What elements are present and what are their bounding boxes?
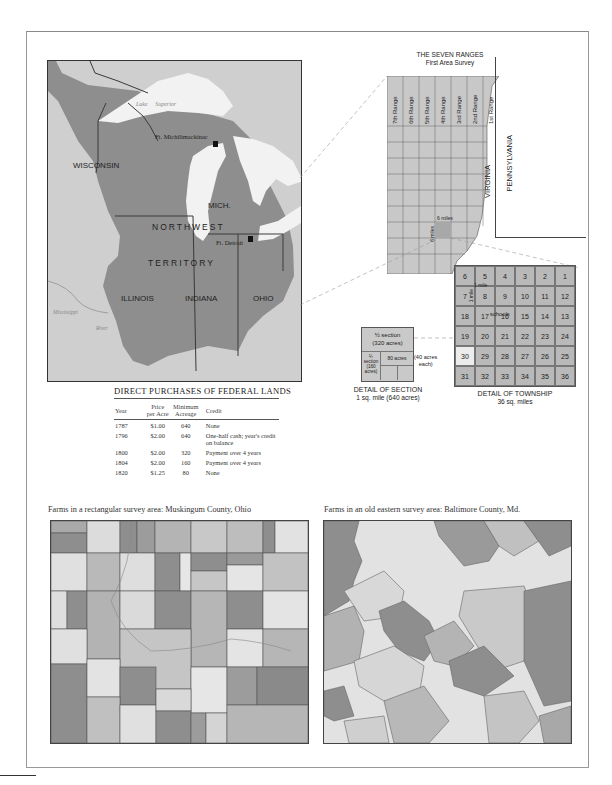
cell-credit: None	[200, 467, 279, 477]
cell-year: 1796	[114, 430, 144, 447]
township-section: 24	[555, 326, 575, 346]
section-caption-title: DETAIL OF SECTION	[338, 386, 438, 393]
table-row: 1787 $1.00 640 None	[114, 420, 279, 431]
cell-price: $2.00	[144, 447, 172, 457]
cell-acreage: 640	[172, 430, 200, 447]
township-caption-area: 36 sq. miles	[440, 398, 590, 405]
township-section: 12	[555, 286, 575, 306]
township-section: 33	[495, 366, 515, 386]
cell-price: $2.00	[144, 430, 172, 447]
township-section: 22	[515, 326, 535, 346]
one-mile-horizontal: 1 mile	[474, 282, 487, 288]
township-section: 25	[555, 346, 575, 366]
cell-acreage: 80	[172, 467, 200, 477]
table-row: 1796 $2.00 640 One-half cash; year's cre…	[114, 430, 279, 447]
township-section: 14	[535, 306, 555, 326]
section-detail: ½ section (320 acres) ¼ section (160 acr…	[361, 327, 414, 382]
township-section: 4	[495, 266, 515, 286]
header-minimum-acreage: MinimumAcreage	[172, 401, 200, 420]
federal-lands-table: DIRECT PURCHASES OF FEDERAL LANDS Year P…	[114, 386, 279, 477]
cell-year: 1820	[114, 467, 144, 477]
quarter-section: ¼ section (160 acres)	[362, 352, 381, 380]
footer-rule	[0, 775, 36, 776]
table-row: 1800 $2.00 320 Payment over 4 years	[114, 447, 279, 457]
rectangular-farms-caption: Farms in a rectangular survey area: Musk…	[48, 505, 251, 514]
township-section: 32	[475, 366, 495, 386]
cell-year: 1804	[114, 457, 144, 467]
township-section: 23	[535, 326, 555, 346]
township-section: 20	[475, 326, 495, 346]
quarter-label: acres)	[362, 369, 380, 374]
half-section-label: ½ section	[362, 331, 413, 339]
township-section: 27	[515, 346, 535, 366]
township-section: 21	[495, 326, 515, 346]
forty-acres-text: each)	[414, 361, 437, 368]
township-section: 9	[495, 286, 515, 306]
cell-credit: Payment over 4 years	[200, 447, 279, 457]
township-section: 35	[535, 366, 555, 386]
cell-credit: Payment over 4 years	[200, 457, 279, 467]
eastern-farms-caption: Farms in an old eastern survey area: Bal…	[324, 505, 520, 514]
one-mile-vertical: 1 mile	[468, 289, 474, 302]
purchases-table: Year Priceper Acre MinimumAcreage Credit…	[114, 401, 279, 477]
rectangular-survey-map	[50, 520, 309, 744]
table-header-row: Year Priceper Acre MinimumAcreage Credit	[114, 401, 279, 420]
half-section-acres: (320 acres)	[362, 339, 413, 347]
township-section-highlighted: 30	[455, 346, 475, 366]
township-section: 2	[535, 266, 555, 286]
section-caption-area: 1 sq. mile (640 acres)	[338, 394, 438, 401]
township-section: 18	[455, 306, 475, 326]
table-title: DIRECT PURCHASES OF FEDERAL LANDS	[114, 386, 279, 399]
cell-price: $1.00	[144, 420, 172, 431]
cell-year: 1787	[114, 420, 144, 431]
township-section: 6	[455, 266, 475, 286]
schools-label: schools	[490, 311, 510, 317]
forty-acres-label: (40 acres each)	[414, 354, 437, 367]
cell-acreage: 160	[172, 457, 200, 467]
eastern-survey-map	[323, 520, 572, 744]
township-grid: 6 5 4 3 2 1 7 8 9 10 11 12 18 17 16 15 1…	[454, 265, 576, 387]
township-section: 1	[555, 266, 575, 286]
township-caption-title: DETAIL OF TOWNSHIP	[440, 390, 590, 397]
cell-price: $2.00	[144, 457, 172, 467]
table-row: 1804 $2.00 160 Payment over 4 years	[114, 457, 279, 467]
township-caption: DETAIL OF TOWNSHIP 36 sq. miles	[440, 390, 590, 405]
township-section: 26	[535, 346, 555, 366]
header-year: Year	[114, 401, 144, 420]
cell-acreage: 320	[172, 447, 200, 457]
township-section: 29	[475, 346, 495, 366]
header-credit: Credit	[200, 401, 279, 420]
township-section: 8	[475, 286, 495, 306]
township-section: 19	[455, 326, 475, 346]
township-section: 13	[555, 306, 575, 326]
township-section: 28	[495, 346, 515, 366]
forty-acre-plot	[381, 366, 398, 380]
cell-credit: None	[200, 420, 279, 431]
cell-year: 1800	[114, 447, 144, 457]
cell-credit: One-half cash; year's credit on balance	[200, 430, 279, 447]
township-section: 15	[515, 306, 535, 326]
township-section: 34	[515, 366, 535, 386]
header-price: Priceper Acre	[144, 401, 172, 420]
eighty-acres: 80 acres	[381, 352, 413, 366]
township-section: 10	[515, 286, 535, 306]
cell-price: $1.25	[144, 467, 172, 477]
half-section: ½ section (320 acres)	[362, 328, 413, 352]
cell-acreage: 640	[172, 420, 200, 431]
township-section: 31	[455, 366, 475, 386]
forty-acres-text: (40 acres	[414, 354, 437, 361]
township-section: 11	[535, 286, 555, 306]
table-row: 1820 $1.25 80 None	[114, 467, 279, 477]
forty-acre-plot	[398, 366, 414, 380]
township-section: 3	[515, 266, 535, 286]
township-section: 36	[555, 366, 575, 386]
section-caption: DETAIL OF SECTION 1 sq. mile (640 acres)	[338, 386, 438, 401]
